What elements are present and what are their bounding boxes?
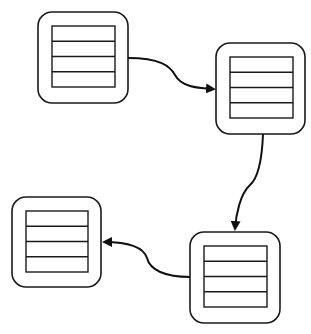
flow-diagram <box>0 0 311 334</box>
edge-arrow-node-2-to-node-4 <box>235 134 263 229</box>
diagram-node-2[interactable] <box>216 43 305 134</box>
diagram-node-1[interactable] <box>38 12 128 103</box>
diagram-node-4[interactable] <box>190 232 280 323</box>
diagram-node-3[interactable] <box>12 197 101 287</box>
edge-arrow-node-4-to-node-3 <box>104 242 190 277</box>
edge-arrow-node-1-to-node-2 <box>128 58 214 89</box>
nodes <box>12 12 305 323</box>
